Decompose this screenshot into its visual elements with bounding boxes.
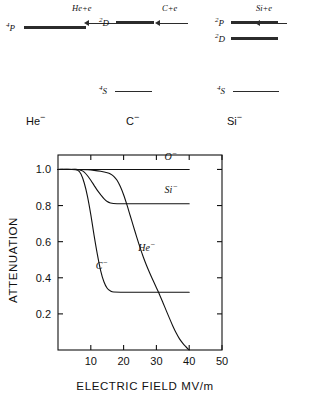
level-c-4s (115, 91, 152, 92)
level-si-2p (231, 21, 278, 24)
detachment-arrow-c (155, 20, 188, 27)
species-name-he: He (26, 115, 40, 127)
curve-label-si: Si− (165, 182, 178, 195)
term-letter-c-2d: D (103, 18, 110, 28)
y-tick-label: 0.4 (36, 272, 51, 284)
curve-label-o: O− (165, 149, 178, 162)
species-charge-c: − (134, 112, 139, 122)
curves (58, 169, 189, 350)
term-label-c-2d: 2D (99, 17, 109, 28)
species-name-si: Si (227, 115, 237, 127)
level-si-2d (231, 37, 278, 40)
species-charge-he: − (40, 112, 45, 122)
x-tick-label: 20 (117, 355, 129, 367)
term-letter-c-4s: S (103, 86, 108, 96)
curve-label-c: C− (96, 258, 108, 271)
species-label-c: C− (126, 113, 139, 127)
level-c-2d (116, 21, 154, 24)
escape-label-c: C+e (162, 4, 177, 13)
curve-label-he: He− (137, 240, 155, 253)
species-label-he: He− (26, 113, 45, 127)
x-axis-title: ELECTRIC FIELD MV/m (76, 380, 213, 392)
y-tick-label: 0.2 (36, 308, 51, 320)
escape-label-si: Si+e (256, 4, 272, 13)
y-tick-label: 0.6 (36, 236, 51, 248)
term-label-si-2d: 2D (215, 33, 225, 44)
x-tick-label: 40 (183, 355, 195, 367)
level-he-4p (24, 26, 86, 29)
escape-label-he: He+e (72, 4, 91, 13)
species-label-si: Si− (227, 113, 242, 127)
x-tick-label: 50 (216, 355, 228, 367)
x-tick-label: 10 (85, 355, 97, 367)
y-tick-label: 0.8 (36, 200, 51, 212)
term-label-si-2p: 2P (215, 17, 224, 28)
species-name-c: C (126, 115, 134, 127)
curve-he (58, 169, 189, 350)
term-letter-si-2d: D (219, 34, 226, 44)
term-label-c-4s: 4S (99, 85, 107, 96)
axis-tick-labels: 10203040500.20.40.60.81.0 (36, 163, 228, 367)
attenuation-chart-svg: 10203040500.20.40.60.81.0 O−Si−C−He− ELE… (0, 140, 310, 397)
energy-level-diagram: He+e 4P He− C+e 2D 4S C− Si+e 2P 2D 4S S… (0, 0, 310, 140)
level-si-4s (233, 91, 279, 92)
attenuation-chart: 10203040500.20.40.60.81.0 O−Si−C−He− ELE… (0, 140, 310, 397)
curve-labels: O−Si−C−He− (96, 149, 178, 270)
term-letter-he-4p: P (10, 23, 16, 33)
term-label-he-4p: 4P (6, 22, 15, 33)
term-label-si-4s: 4S (217, 85, 225, 96)
term-letter-si-4s: S (221, 86, 226, 96)
y-axis-title: ATTENUATION (7, 217, 19, 303)
y-tick-label: 1.0 (36, 163, 51, 175)
species-charge-si: − (237, 112, 242, 122)
term-letter-si-2p: P (219, 18, 225, 28)
x-tick-label: 30 (150, 355, 162, 367)
